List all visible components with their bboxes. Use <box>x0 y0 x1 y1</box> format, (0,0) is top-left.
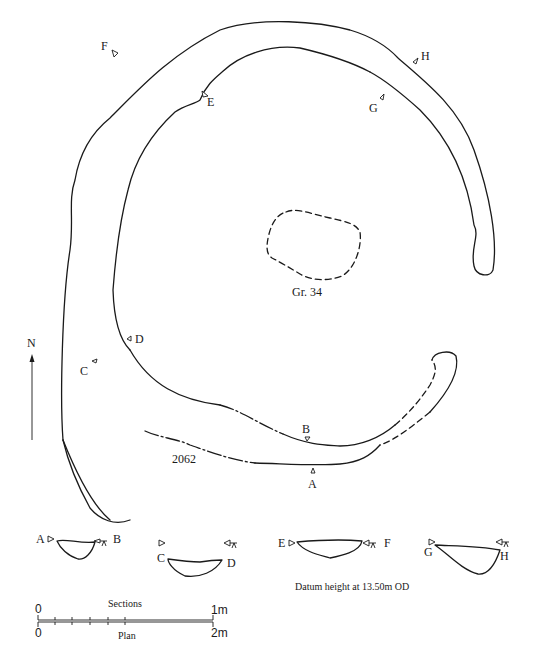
svg-text:E: E <box>207 95 214 109</box>
svg-text:0: 0 <box>35 626 42 640</box>
svg-text:A: A <box>308 477 317 491</box>
svg-text:B: B <box>302 422 310 436</box>
marker-C: C <box>80 359 97 378</box>
svg-text:0: 0 <box>35 602 42 616</box>
marker-F: F <box>101 39 118 57</box>
marker-D: D <box>127 332 144 346</box>
ditch-inner-edge-bottom <box>283 425 395 446</box>
marker-H: H <box>413 49 430 64</box>
ditch-outer-edge <box>62 22 495 440</box>
svg-text:D: D <box>135 332 144 346</box>
grave-34-outline <box>267 210 360 279</box>
marker-G: G <box>369 94 384 115</box>
ditch-south-terminal <box>430 352 457 412</box>
ditch-inner-edge-south <box>130 350 220 405</box>
svg-text:D: D <box>227 556 236 570</box>
svg-text:B: B <box>113 532 121 546</box>
profile-E-F: E F <box>278 536 391 558</box>
svg-text:N: N <box>27 336 36 350</box>
ditch-inner-edge-southeast-dashed <box>395 360 435 425</box>
marker-B: B <box>302 422 310 441</box>
north-arrow: N <box>27 336 36 440</box>
svg-text:F: F <box>384 536 391 550</box>
profile-A-B: A B <box>36 532 121 559</box>
svg-text:G: G <box>424 545 433 559</box>
svg-text:E: E <box>278 536 285 550</box>
svg-text:Sections: Sections <box>108 598 142 609</box>
ditch-inner-edge-north <box>113 47 370 350</box>
ditch-outer-edge-bottom-dashed <box>145 431 255 463</box>
scale-bar-sections: 0 Sections 1m <box>35 598 228 620</box>
ditch-outer-edge-bottom <box>255 445 380 465</box>
marker-A: A <box>308 468 317 491</box>
archaeological-plan-drawing: Gr. 34 2062 F E H G D C B A N A <box>0 0 546 668</box>
marker-E: E <box>202 91 214 109</box>
svg-text:H: H <box>500 549 509 563</box>
ditch-outer-edge-south-b <box>63 440 110 520</box>
profile-C-D: C D <box>157 540 237 576</box>
svg-text:G: G <box>369 101 378 115</box>
scale-bar-plan: 0 Plan 2m <box>35 622 228 641</box>
svg-text:1m: 1m <box>211 603 228 617</box>
svg-text:C: C <box>157 551 165 565</box>
svg-text:F: F <box>101 39 108 53</box>
feature-label: 2062 <box>172 452 196 466</box>
profile-G-H: G H <box>424 539 509 574</box>
svg-text:2m: 2m <box>211 626 228 640</box>
svg-text:H: H <box>421 49 430 63</box>
datum-note: Datum height at 13.50m OD <box>295 581 409 592</box>
ditch-outer-edge-southeast-dashed <box>380 412 430 445</box>
svg-text:C: C <box>80 364 88 378</box>
grave-label: Gr. 34 <box>292 285 322 299</box>
ditch-outer-edge-south <box>63 440 130 522</box>
ditch-inner-edge-south-dashed <box>220 405 283 434</box>
svg-text:A: A <box>36 532 45 546</box>
svg-text:Plan: Plan <box>118 630 136 641</box>
